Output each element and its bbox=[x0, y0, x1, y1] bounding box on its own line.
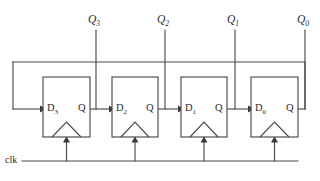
ff0-q-pin-label: Q bbox=[286, 103, 294, 114]
output-label-q2: Q2 bbox=[157, 14, 169, 28]
ff0-d-pin-label: D0 bbox=[255, 103, 266, 116]
ff2-d-pin-label: D2 bbox=[116, 103, 127, 116]
ff2-q-pin-label: Q bbox=[146, 103, 154, 114]
ff3-q-pin-label: Q bbox=[78, 103, 86, 114]
output-label-q0: Q0 bbox=[297, 14, 309, 28]
schematic-canvas: Q3 Q2 Q1 Q0 D3 D2 D1 D0 Q Q Q Q clk bbox=[0, 0, 320, 181]
clock-input-label: clk bbox=[5, 155, 17, 165]
output-label-q1: Q1 bbox=[227, 14, 239, 28]
ff1-d-pin-label: D1 bbox=[185, 103, 196, 116]
output-label-q3: Q3 bbox=[88, 14, 100, 28]
ff1-q-pin-label: Q bbox=[215, 103, 223, 114]
ff3-d-pin-label: D3 bbox=[47, 103, 58, 116]
clock-bus bbox=[22, 137, 298, 162]
